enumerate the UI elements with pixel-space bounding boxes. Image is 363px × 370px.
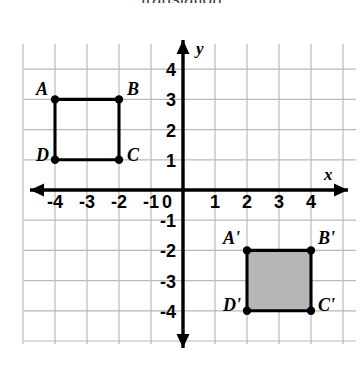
y-axis-label: y — [194, 39, 204, 58]
vertex-label-D: D — [35, 145, 49, 165]
x-tick-label: -2 — [111, 192, 127, 212]
y-tick-label: -1 — [160, 211, 176, 231]
x-tick-label: 3 — [274, 192, 284, 212]
y-tick-label: 3 — [166, 90, 176, 110]
shaded-fill-square-A-prime-B-prime-C-prime-D-prime — [247, 250, 311, 310]
vertex-point-A-prime — [243, 246, 251, 254]
vertex-point-B — [115, 95, 123, 103]
vertex-label-A: A — [35, 79, 48, 99]
y-tick-label: 4 — [166, 60, 176, 80]
shaded-regions — [247, 250, 311, 310]
y-tick-label: -2 — [160, 241, 176, 261]
x-tick-label: 4 — [306, 192, 316, 212]
vertex-point-D — [51, 156, 59, 164]
x-tick-label: 1 — [210, 192, 220, 212]
y-tick-label: -3 — [160, 272, 176, 292]
vertex-label-D-prime: D' — [222, 295, 241, 315]
vertex-label-A-prime: A' — [222, 228, 240, 248]
vertex-point-A — [51, 95, 59, 103]
x-tick-label: -1 — [143, 192, 159, 212]
vertex-point-D-prime — [243, 307, 251, 315]
vertex-point-B-prime — [307, 246, 315, 254]
figure-title: translation — [0, 0, 363, 3]
vertex-label-C-prime: C' — [318, 295, 335, 315]
y-tick-label: 2 — [166, 121, 176, 141]
coordinate-plane: y x -4-3-2-112344321-1-2-3-40 ABCDA'B'C'… — [0, 0, 363, 370]
x-tick-label: -3 — [79, 192, 95, 212]
origin-label: 0 — [162, 192, 172, 212]
y-tick-label: -4 — [160, 302, 176, 322]
vertex-point-C-prime — [307, 307, 315, 315]
x-axis-label: x — [323, 165, 333, 184]
translation-figure: translation y x -4-3-2-112344321-1-2-3-4… — [0, 0, 363, 370]
vertex-label-C: C — [127, 145, 140, 165]
x-tick-label: 2 — [242, 192, 252, 212]
vertex-label-B: B — [126, 79, 139, 99]
vertex-point-C — [115, 156, 123, 164]
x-tick-label: -4 — [47, 192, 63, 212]
vertex-label-B-prime: B' — [317, 228, 335, 248]
y-tick-label: 1 — [166, 151, 176, 171]
